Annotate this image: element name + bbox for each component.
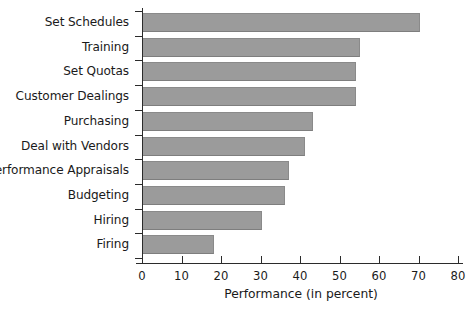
category-label-training: Training bbox=[82, 38, 129, 57]
category-label-firing: Firing bbox=[96, 235, 129, 254]
y-axis-tick bbox=[135, 184, 143, 185]
bar-deal-with-vendors bbox=[143, 137, 305, 156]
x-axis-tick bbox=[379, 256, 380, 264]
y-axis-tick bbox=[135, 233, 143, 234]
y-axis-tick bbox=[135, 159, 143, 160]
x-axis-tick bbox=[340, 256, 341, 264]
bar-chart: Set SchedulesTrainingSet QuotasCustomer … bbox=[0, 0, 469, 310]
bar-training bbox=[143, 38, 360, 57]
x-axis-tick-label: 30 bbox=[253, 269, 268, 283]
bar-budgeting bbox=[143, 186, 285, 205]
x-axis-title: Performance (in percent) bbox=[143, 287, 459, 301]
category-label-customer-dealings: Customer Dealings bbox=[16, 87, 129, 106]
bar-firing bbox=[143, 235, 214, 254]
x-axis-tick bbox=[182, 256, 183, 264]
x-axis-line: 01020304050607080 bbox=[136, 263, 463, 264]
y-axis-tick bbox=[135, 36, 143, 37]
y-axis-tick bbox=[135, 85, 143, 86]
x-axis-tick-label: 80 bbox=[451, 269, 466, 283]
category-axis-labels: Set SchedulesTrainingSet QuotasCustomer … bbox=[0, 11, 136, 258]
x-axis-tick bbox=[261, 256, 262, 264]
category-label-performance-appraisals: Performance Appraisals bbox=[0, 161, 129, 180]
x-axis-tick bbox=[221, 256, 222, 264]
y-axis-tick bbox=[135, 135, 143, 136]
bar-purchasing bbox=[143, 112, 313, 131]
x-axis-tick bbox=[300, 256, 301, 264]
category-label-hiring: Hiring bbox=[93, 211, 129, 230]
x-axis-tick bbox=[142, 256, 143, 264]
x-axis-tick-label: 10 bbox=[174, 269, 189, 283]
x-axis-tick bbox=[458, 256, 459, 264]
category-label-set-quotas: Set Quotas bbox=[63, 62, 129, 81]
y-axis-tick bbox=[135, 60, 143, 61]
bar-hiring bbox=[143, 211, 262, 230]
plot-area bbox=[143, 11, 459, 258]
y-axis-tick bbox=[135, 209, 143, 210]
bar-set-quotas bbox=[143, 62, 356, 81]
category-label-set-schedules: Set Schedules bbox=[45, 13, 129, 32]
bar-set-schedules bbox=[143, 13, 420, 32]
category-label-deal-with-vendors: Deal with Vendors bbox=[21, 137, 129, 156]
y-axis-tick bbox=[135, 11, 143, 12]
x-axis-tick-label: 0 bbox=[138, 269, 145, 283]
x-axis-tick-label: 70 bbox=[411, 269, 426, 283]
category-label-purchasing: Purchasing bbox=[64, 112, 129, 131]
x-axis-tick-label: 20 bbox=[214, 269, 229, 283]
x-axis-tick-label: 50 bbox=[332, 269, 347, 283]
x-axis-tick-label: 60 bbox=[372, 269, 387, 283]
y-axis-tick bbox=[135, 110, 143, 111]
bar-performance-appraisals bbox=[143, 161, 289, 180]
bar-customer-dealings bbox=[143, 87, 356, 106]
y-axis-line bbox=[142, 8, 143, 264]
x-axis-tick-label: 40 bbox=[293, 269, 308, 283]
category-label-budgeting: Budgeting bbox=[68, 186, 129, 205]
x-axis-tick bbox=[419, 256, 420, 264]
